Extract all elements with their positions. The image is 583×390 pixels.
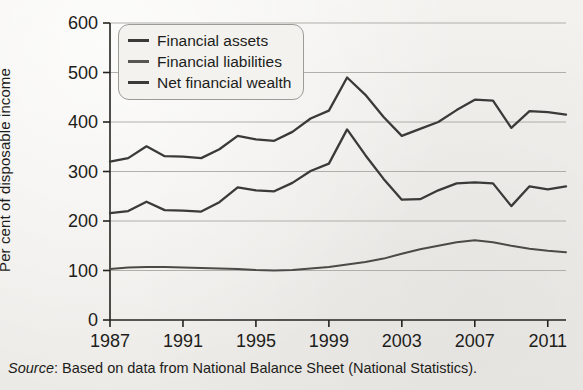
legend-label: Financial liabilities bbox=[157, 52, 282, 71]
svg-text:1995: 1995 bbox=[236, 331, 276, 351]
svg-text:0: 0 bbox=[88, 310, 98, 330]
svg-text:2003: 2003 bbox=[382, 331, 422, 351]
y-tick-labels: 0100200300400500600 bbox=[68, 13, 98, 330]
legend-item-net-financial-wealth[interactable]: Net financial wealth bbox=[128, 72, 291, 93]
x-tick-labels: 1987199119951999200320072011 bbox=[90, 331, 567, 351]
svg-text:200: 200 bbox=[68, 211, 98, 231]
chart-legend[interactable]: Financial assets Financial liabilities N… bbox=[118, 24, 304, 100]
line-swatch-icon bbox=[128, 60, 149, 63]
source-text: : Based on data from National Balance Sh… bbox=[54, 360, 477, 376]
svg-text:1991: 1991 bbox=[163, 331, 203, 351]
source-note: Source: Based on data from National Bala… bbox=[8, 360, 477, 376]
line-swatch-icon bbox=[128, 81, 149, 84]
svg-text:2007: 2007 bbox=[455, 331, 495, 351]
source-prefix: Source bbox=[8, 360, 54, 376]
svg-text:600: 600 bbox=[68, 13, 98, 33]
legend-item-financial-assets[interactable]: Financial assets bbox=[128, 30, 291, 51]
x-tick-marks bbox=[110, 320, 548, 327]
svg-text:2011: 2011 bbox=[528, 331, 567, 351]
svg-text:100: 100 bbox=[68, 261, 98, 281]
legend-label: Net financial wealth bbox=[157, 73, 291, 92]
legend-label: Financial assets bbox=[157, 31, 268, 50]
svg-text:400: 400 bbox=[68, 112, 98, 132]
y-axis-label: Per cent of disposable income bbox=[0, 0, 18, 340]
legend-item-financial-liabilities[interactable]: Financial liabilities bbox=[128, 51, 291, 72]
data-series-group bbox=[110, 78, 566, 271]
line-swatch-icon bbox=[128, 39, 149, 42]
chart-figure: Per cent of disposable income 0100200300… bbox=[0, 0, 583, 390]
svg-text:300: 300 bbox=[68, 162, 98, 182]
y-tick-marks bbox=[103, 23, 110, 320]
svg-text:500: 500 bbox=[68, 63, 98, 83]
series-line-financial-liabilities bbox=[110, 240, 566, 270]
svg-text:1987: 1987 bbox=[90, 331, 130, 351]
svg-text:1999: 1999 bbox=[309, 331, 349, 351]
